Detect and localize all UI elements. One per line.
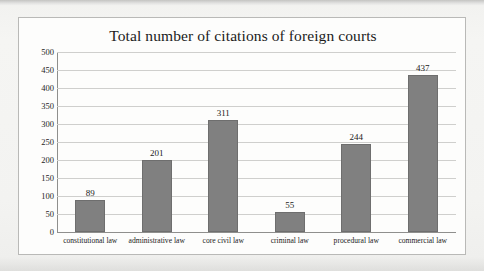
bar-group: 89 [57, 52, 124, 232]
y-tick-label: 250 [24, 138, 54, 147]
x-axis-label: procedural law [323, 236, 390, 246]
bar-value-label: 437 [416, 63, 430, 73]
y-tick-label: 50 [24, 210, 54, 219]
y-tick-label: 400 [24, 84, 54, 93]
bar-value-label: 55 [285, 200, 294, 210]
gridline-0 [57, 232, 456, 233]
bar[interactable] [208, 120, 238, 232]
x-axis-label: core civil law [190, 236, 257, 246]
y-tick-label: 150 [24, 174, 54, 183]
bar[interactable] [341, 144, 371, 232]
y-axis-tick-labels: 050100150200250300350400450500 [21, 52, 54, 232]
bar-group: 437 [390, 52, 457, 232]
bar-value-label: 244 [350, 132, 364, 142]
y-tick-label: 450 [24, 66, 54, 75]
bar-group: 201 [124, 52, 191, 232]
bar[interactable] [75, 200, 105, 232]
y-tick-label: 350 [24, 102, 54, 111]
bar-value-label: 311 [217, 108, 230, 118]
y-tick-label: 300 [24, 120, 54, 129]
bar-group: 311 [190, 52, 257, 232]
chart-title: Total number of citations of foreign cou… [19, 27, 467, 45]
x-axis-category-labels: constitutional lawadministrative lawcore… [57, 236, 456, 250]
bar-value-label: 89 [86, 188, 95, 198]
bar-group: 55 [257, 52, 324, 232]
y-tick-label: 500 [24, 48, 54, 57]
x-axis-label: constitutional law [57, 236, 124, 246]
plot-area: 8920131155244437 [57, 52, 456, 232]
y-tick-label: 200 [24, 156, 54, 165]
x-axis-label: criminal law [257, 236, 324, 246]
x-axis-label: commercial law [390, 236, 457, 246]
chart-frame: Total number of citations of foreign cou… [18, 17, 466, 255]
bar[interactable] [142, 160, 172, 232]
bar[interactable] [275, 212, 305, 232]
x-axis-label: administrative law [124, 236, 191, 246]
bar-value-label: 201 [150, 148, 164, 158]
bar-group: 244 [323, 52, 390, 232]
bar[interactable] [408, 75, 438, 232]
y-tick-label: 0 [24, 228, 54, 237]
scan-artifact-bottom [0, 257, 484, 271]
y-tick-label: 100 [24, 192, 54, 201]
scan-artifact-top [0, 0, 484, 5]
